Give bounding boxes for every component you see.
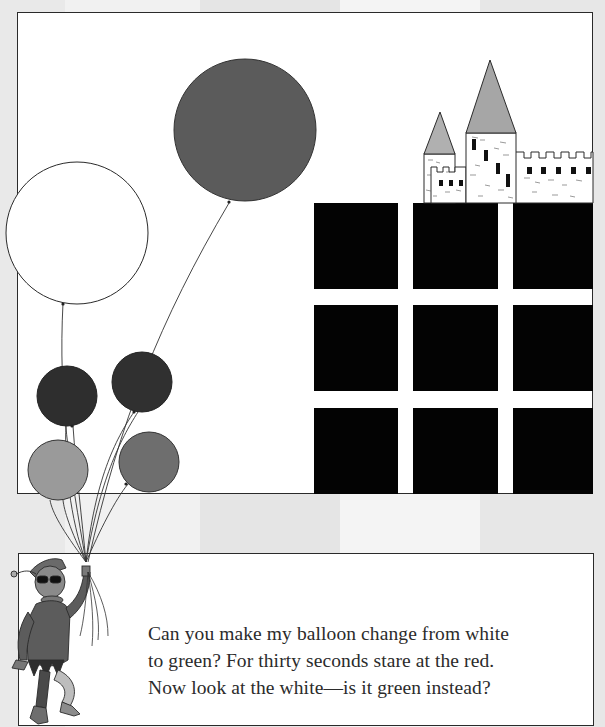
balloons	[6, 59, 316, 500]
castle-illustration	[424, 60, 593, 203]
red-balloon	[174, 59, 316, 201]
dark-balloon-left	[37, 366, 97, 426]
medium-balloon-right	[119, 432, 179, 492]
dark-balloon-right	[112, 352, 172, 412]
light-balloon-left	[28, 440, 88, 500]
white-balloon	[6, 162, 148, 304]
jester-illustration	[11, 559, 108, 724]
